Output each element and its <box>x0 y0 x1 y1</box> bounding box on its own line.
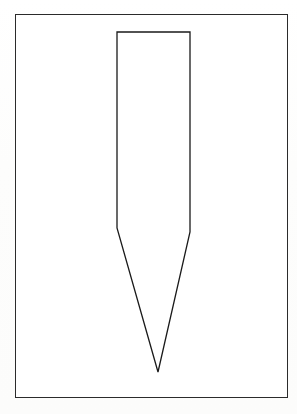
figure-drawing-canvas <box>15 14 288 398</box>
scanned-page <box>0 0 297 414</box>
figure-caption <box>16 404 281 414</box>
tapered-projectile-outline <box>117 32 190 372</box>
